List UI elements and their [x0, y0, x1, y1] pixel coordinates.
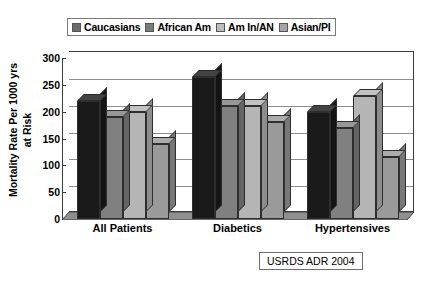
y-axis-tick-label: 0 — [30, 214, 60, 225]
y-axis-tick-label: 300 — [30, 53, 60, 64]
legend-label-african-am: African Am — [157, 22, 211, 33]
bar-front-face — [307, 112, 330, 219]
y-axis-tick-label: 50 — [30, 187, 60, 198]
legend-entry-am-in-an: Am In/AN — [216, 22, 274, 33]
bar-side-face — [353, 114, 360, 212]
legend-label-caucasians: Caucasians — [84, 22, 140, 33]
x-axis-label-hypertensives: Hypertensives — [293, 222, 413, 234]
bar-side-face — [284, 108, 291, 212]
legend-entry-asian-pi: Asian/PI — [279, 22, 331, 33]
y-axis-tick-label: 250 — [30, 80, 60, 91]
legend-entry-caucasians: Caucasians — [72, 22, 140, 33]
legend-label-asian-pi: Asian/PI — [291, 22, 331, 33]
legend-swatch-icon-african-am — [145, 23, 154, 32]
source-note: USRDS ADR 2004 — [259, 252, 363, 270]
legend-swatch-icon-asian-pi — [279, 23, 288, 32]
bar-side-face — [146, 98, 153, 212]
legend-swatch-icon-am-in-an — [216, 23, 225, 32]
legend-entry-african-am: African Am — [145, 22, 211, 33]
bar-side-face — [215, 63, 222, 212]
bar-side-face — [330, 98, 337, 212]
bar-side-face — [261, 92, 268, 212]
bar-all-patients-caucasians — [77, 101, 100, 219]
y-axis-tick-label: 100 — [30, 160, 60, 171]
legend-swatch-icon-caucasians — [72, 23, 81, 32]
bar-side-face — [376, 82, 383, 212]
chart-legend: Caucasians African Am Am In/AN Asian/PI — [67, 18, 336, 36]
chart-container: Caucasians African Am Am In/AN Asian/PI … — [0, 0, 435, 286]
x-axis-label-all-patients: All Patients — [63, 222, 183, 234]
legend-label-am-in-an: Am In/AN — [228, 22, 274, 33]
bars-layer — [62, 51, 414, 220]
bar-diabetics-caucasians — [192, 77, 215, 219]
y-axis-tick-label: 150 — [30, 134, 60, 145]
bar-side-face — [123, 103, 130, 212]
y-axis-title-line-1: Mortality Rate Per 1000 yrs — [6, 63, 20, 197]
y-axis-tick-label: 200 — [30, 107, 60, 118]
bar-hypertensives-caucasians — [307, 112, 330, 219]
x-axis-label-diabetics: Diabetics — [178, 222, 298, 234]
bar-side-face — [100, 87, 107, 212]
bar-side-face — [238, 92, 245, 212]
bar-front-face — [192, 77, 215, 219]
bar-front-face — [77, 101, 100, 219]
